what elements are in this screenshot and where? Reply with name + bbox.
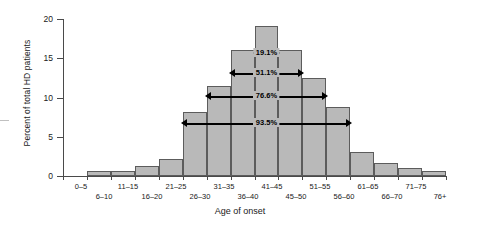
bar-71-75 bbox=[398, 168, 422, 176]
x-tick-mark bbox=[350, 176, 351, 180]
y-tick-label-0: 0 bbox=[31, 171, 53, 181]
y-tick-label-10: 10 bbox=[31, 93, 53, 103]
x-tick-mark bbox=[302, 176, 303, 180]
x-tick-label-16-20: 16–20 bbox=[132, 192, 172, 201]
x-tick-mark bbox=[326, 176, 327, 180]
x-tick-label-31-35: 31–35 bbox=[204, 182, 244, 191]
x-tick-label-51-55: 51–55 bbox=[300, 182, 340, 191]
x-tick-label-41-45: 41–45 bbox=[252, 182, 292, 191]
x-tick-label-56-60: 56–60 bbox=[324, 192, 364, 201]
bar-76- bbox=[422, 171, 446, 176]
y-tick-label-20: 20 bbox=[31, 14, 53, 24]
x-tick-label-6-10: 6–10 bbox=[84, 192, 124, 201]
x-tick-mark bbox=[183, 176, 184, 180]
annotation-arrowhead-left bbox=[181, 119, 187, 127]
annotation-line-left bbox=[210, 96, 254, 98]
annotation-line-right bbox=[279, 96, 323, 98]
x-tick-mark bbox=[135, 176, 136, 180]
bar-21-25 bbox=[159, 159, 183, 176]
annotation-arrowhead-right bbox=[322, 92, 328, 100]
x-tick-label-36-40: 36–40 bbox=[228, 192, 268, 201]
x-tick-mark bbox=[422, 176, 423, 180]
annotation-label-19-1: 19.1% bbox=[254, 48, 279, 57]
bar-56-60 bbox=[326, 107, 350, 176]
bar-16-20 bbox=[135, 166, 159, 176]
x-tick-mark bbox=[446, 176, 447, 180]
annotation-line-right bbox=[279, 123, 347, 125]
bar-66-70 bbox=[374, 163, 398, 176]
x-tick-label-45-50: 45–50 bbox=[276, 192, 316, 201]
y-tick-label-15: 15 bbox=[31, 53, 53, 63]
x-tick-mark bbox=[278, 176, 279, 180]
x-tick-mark bbox=[231, 176, 232, 180]
annotation-label-51-1: 51.1% bbox=[254, 68, 279, 77]
histogram-figure: Percent of total HD patients Age of onse… bbox=[0, 0, 480, 227]
annotation-arrowhead-right bbox=[346, 119, 352, 127]
annotation-51-1: 51.1% bbox=[231, 69, 303, 78]
x-tick-mark bbox=[207, 176, 208, 180]
bar-11-15 bbox=[111, 171, 135, 176]
x-tick-mark bbox=[374, 176, 375, 180]
annotation-76-6: 76.6% bbox=[207, 92, 327, 101]
annotation-line-right bbox=[279, 73, 299, 75]
x-tick-label-26-30: 26–30 bbox=[180, 192, 220, 201]
x-tick-label-76plus: 76+ bbox=[420, 192, 460, 201]
annotation-arrowhead-right bbox=[298, 69, 304, 77]
annotation-line-left bbox=[234, 73, 254, 75]
x-tick-mark bbox=[111, 176, 112, 180]
annotation-line-left bbox=[186, 123, 254, 125]
x-axis-label: Age of onset bbox=[0, 206, 480, 216]
bar-6-10 bbox=[87, 171, 111, 176]
annotation-93-5: 93.5% bbox=[183, 119, 351, 128]
bar-61-65 bbox=[350, 152, 374, 176]
x-tick-label-61-65: 61–65 bbox=[348, 182, 388, 191]
y-tick-label-5: 5 bbox=[31, 132, 53, 142]
x-tick-label-21-25: 21–25 bbox=[156, 182, 196, 191]
annotation-19-1: 19.1% bbox=[255, 49, 279, 58]
x-tick-mark bbox=[159, 176, 160, 180]
annotation-label-93-5: 93.5% bbox=[254, 118, 279, 127]
annotation-label-76-6: 76.6% bbox=[254, 91, 279, 100]
annotation-arrowhead-left bbox=[229, 69, 235, 77]
x-tick-label-71-75: 71–75 bbox=[396, 182, 436, 191]
x-tick-label-0-5: 0–5 bbox=[61, 182, 101, 191]
scan-artifact-left bbox=[0, 120, 9, 121]
x-tick-label-66-70: 66–70 bbox=[372, 192, 412, 201]
x-tick-mark bbox=[63, 176, 64, 180]
x-tick-mark bbox=[255, 176, 256, 180]
x-tick-mark bbox=[398, 176, 399, 180]
annotation-arrowhead-left bbox=[205, 92, 211, 100]
x-tick-mark bbox=[87, 176, 88, 180]
x-tick-label-11-15: 11–15 bbox=[108, 182, 148, 191]
